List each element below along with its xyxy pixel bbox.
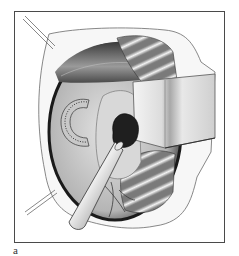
surgical-illustration: [15, 12, 225, 243]
dark-lesion: [113, 114, 139, 148]
retractor-blade: [133, 74, 215, 148]
figure-frame: [14, 11, 225, 243]
panel-label: a: [13, 244, 18, 256]
